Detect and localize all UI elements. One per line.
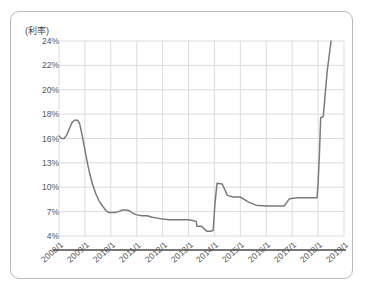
x-tick-label: 2008/1 <box>39 240 65 265</box>
x-tick-label: 2012/1 <box>143 240 169 265</box>
x-tick-label: 2010/1 <box>91 240 117 265</box>
x-tick-label: 2013/1 <box>169 240 195 265</box>
x-tick-label: 2016/1 <box>246 240 272 265</box>
x-tick-label: 2011/1 <box>117 240 143 264</box>
interest-rate-line-chart: (利率) 24%22%20%18%16%13%10%7%4% 2008/1200… <box>11 12 354 280</box>
x-tick-label: 2014/1 <box>194 240 220 265</box>
x-axis-tick-labels: 2008/12009/12010/12011/12012/12013/12014… <box>11 12 354 280</box>
chart-card: (利率) 24%22%20%18%16%13%10%7%4% 2008/1200… <box>10 11 353 279</box>
x-tick-label: 2019/1 <box>324 240 350 265</box>
x-tick-label: 2017/1 <box>272 240 298 265</box>
x-tick-label: 2015/1 <box>220 240 246 265</box>
x-tick-label: 2009/1 <box>65 240 91 265</box>
x-tick-label: 2018/1 <box>298 240 324 265</box>
